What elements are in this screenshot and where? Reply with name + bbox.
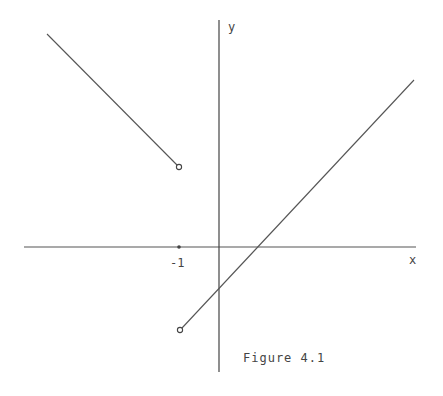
left-piece-line [47,34,177,165]
y-axis-label: y [228,20,235,34]
tick-label: -1 [170,256,184,270]
figure-caption: Figure 4.1 [243,351,325,365]
tick-dot [177,245,181,249]
x-axis-label: x [409,253,416,267]
right-piece-line [182,80,414,328]
open-endpoint-upper [176,164,181,169]
figure-canvas [0,0,443,396]
open-endpoint-lower [177,327,182,332]
